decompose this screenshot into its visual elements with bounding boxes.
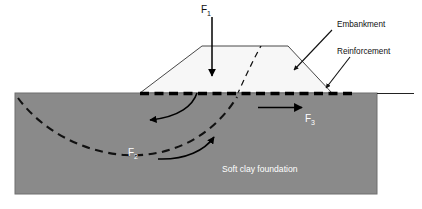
embankment-reinforcement-diagram: F1 F2 F3 Embankment Reinforcement Soft c… [0, 0, 422, 209]
diagram-canvas: F1 F2 F3 Embankment Reinforcement Soft c… [0, 0, 422, 209]
reinforcement-label: Reinforcement [337, 47, 391, 56]
force-f1-label: F1 [201, 4, 211, 17]
soft-clay-foundation-block [15, 93, 377, 194]
embankment-body [140, 46, 332, 93]
embankment-label: Embankment [337, 20, 386, 29]
embankment-leader-line [294, 30, 332, 70]
foundation-label: Soft clay foundation [222, 164, 298, 174]
reinforcement-leader-line [326, 57, 350, 88]
